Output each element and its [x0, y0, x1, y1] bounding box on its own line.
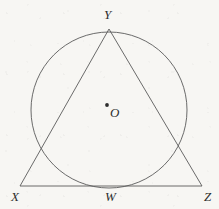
point-label-o: O [110, 106, 119, 119]
circle-shape [31, 32, 187, 188]
vertex-label-y: Y [104, 8, 111, 21]
vertex-label-x: X [11, 190, 19, 203]
geometry-figure: Y X Z W O [0, 0, 219, 209]
point-label-w: W [105, 190, 116, 203]
vertex-label-z: Z [204, 190, 211, 203]
center-point-dot-icon [105, 103, 109, 107]
